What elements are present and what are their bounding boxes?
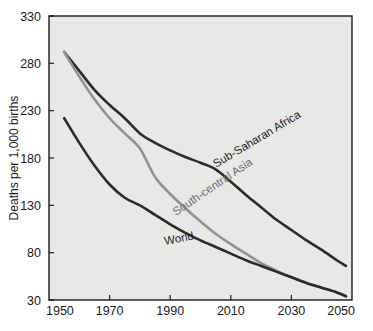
chart-figure: 3080130180230280330 19501970199020102030… — [0, 0, 373, 331]
plot-area-background — [49, 16, 352, 300]
x-tick-label: 1970 — [96, 304, 124, 318]
x-tick-label: 1990 — [156, 304, 184, 318]
y-tick-label: 230 — [20, 104, 41, 118]
y-axis-title: Deaths per 1,000 births — [7, 96, 21, 221]
line-chart: 3080130180230280330 19501970199020102030… — [0, 0, 373, 331]
y-tick-label: 180 — [20, 152, 41, 166]
y-tick-label: 280 — [20, 57, 41, 71]
x-tick-label: 1950 — [46, 304, 74, 318]
y-tick-label: 80 — [27, 246, 41, 260]
x-tick-label: 2010 — [217, 304, 245, 318]
x-tick-label: 2050 — [327, 304, 355, 318]
y-tick-label: 330 — [20, 10, 41, 24]
x-tick-label: 2030 — [277, 304, 305, 318]
y-tick-label: 30 — [27, 294, 41, 308]
y-tick-label: 130 — [20, 199, 41, 213]
